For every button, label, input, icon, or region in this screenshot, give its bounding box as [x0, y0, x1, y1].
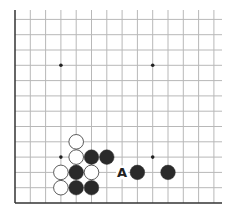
white-stone-icon[interactable]	[84, 165, 99, 180]
white-stone-icon[interactable]	[69, 135, 84, 150]
go-board-grid: A	[0, 0, 236, 218]
star-point-icon	[59, 155, 63, 159]
point-label: A	[117, 165, 127, 180]
star-point-icon	[59, 64, 63, 68]
black-stone-icon[interactable]	[161, 165, 176, 180]
star-point-icon	[151, 64, 155, 68]
white-stone-icon[interactable]	[54, 165, 69, 180]
black-stone-icon[interactable]	[69, 165, 84, 180]
star-point-icon	[151, 155, 155, 159]
black-stone-icon[interactable]	[130, 165, 145, 180]
black-stone-icon[interactable]	[100, 150, 115, 165]
black-stone-icon[interactable]	[69, 180, 84, 195]
black-stone-icon[interactable]	[84, 180, 99, 195]
white-stone-icon[interactable]	[54, 180, 69, 195]
black-stone-icon[interactable]	[84, 150, 99, 165]
white-stone-icon[interactable]	[69, 150, 84, 165]
go-board: A	[0, 0, 236, 218]
